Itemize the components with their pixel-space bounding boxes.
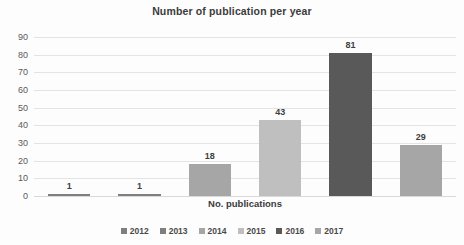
y-axis-tick-label: 70	[18, 67, 28, 77]
y-axis-tick-label: 20	[18, 156, 28, 166]
y-axis-tick-label: 0	[23, 191, 28, 201]
chart-title: Number of publication per year	[0, 5, 464, 17]
y-axis-tick-label: 10	[18, 173, 28, 183]
legend-label: 2015	[247, 226, 266, 236]
y-axis-tick-label: 90	[18, 32, 28, 42]
bars-layer: 1118438129	[34, 37, 456, 196]
legend-label: 2014	[208, 226, 227, 236]
y-axis-tick-label: 60	[18, 85, 28, 95]
legend-swatch-icon	[276, 228, 282, 234]
bar-value-label: 18	[205, 151, 215, 161]
bar-2014[interactable]	[189, 164, 231, 196]
legend-item-2017[interactable]: 2017	[315, 226, 343, 236]
bar-2016[interactable]	[329, 53, 371, 196]
y-axis-tick-label: 80	[18, 50, 28, 60]
bar-chart: Number of publication per year 908070605…	[0, 0, 464, 245]
legend-swatch-icon	[238, 228, 244, 234]
y-axis-tick-label: 50	[18, 103, 28, 113]
legend-swatch-icon	[315, 228, 321, 234]
y-axis-tick-label: 30	[18, 138, 28, 148]
gridline	[34, 196, 456, 197]
bar-value-label: 43	[275, 107, 285, 117]
bar-value-label: 29	[416, 132, 426, 142]
legend-swatch-icon	[160, 228, 166, 234]
bar-2013[interactable]	[118, 194, 160, 196]
bar-value-label: 1	[67, 181, 72, 191]
legend-item-2014[interactable]: 2014	[199, 226, 227, 236]
bar-2017[interactable]	[400, 145, 442, 196]
legend-label: 2013	[169, 226, 188, 236]
bar-2015[interactable]	[259, 120, 301, 196]
bar-2012[interactable]	[48, 194, 90, 196]
y-axis: 9080706050403020100	[0, 37, 32, 196]
legend-label: 2012	[130, 226, 149, 236]
legend-swatch-icon	[199, 228, 205, 234]
legend-swatch-icon	[121, 228, 127, 234]
legend-item-2016[interactable]: 2016	[276, 226, 304, 236]
bar-value-label: 81	[345, 40, 355, 50]
chart-legend: 201220132014201520162017	[0, 226, 464, 236]
y-axis-tick-label: 40	[18, 120, 28, 130]
legend-label: 2016	[285, 226, 304, 236]
legend-item-2015[interactable]: 2015	[238, 226, 266, 236]
legend-label: 2017	[324, 226, 343, 236]
bar-value-label: 1	[137, 181, 142, 191]
legend-item-2012[interactable]: 2012	[121, 226, 149, 236]
legend-item-2013[interactable]: 2013	[160, 226, 188, 236]
x-axis-label: No. publications	[34, 198, 456, 209]
